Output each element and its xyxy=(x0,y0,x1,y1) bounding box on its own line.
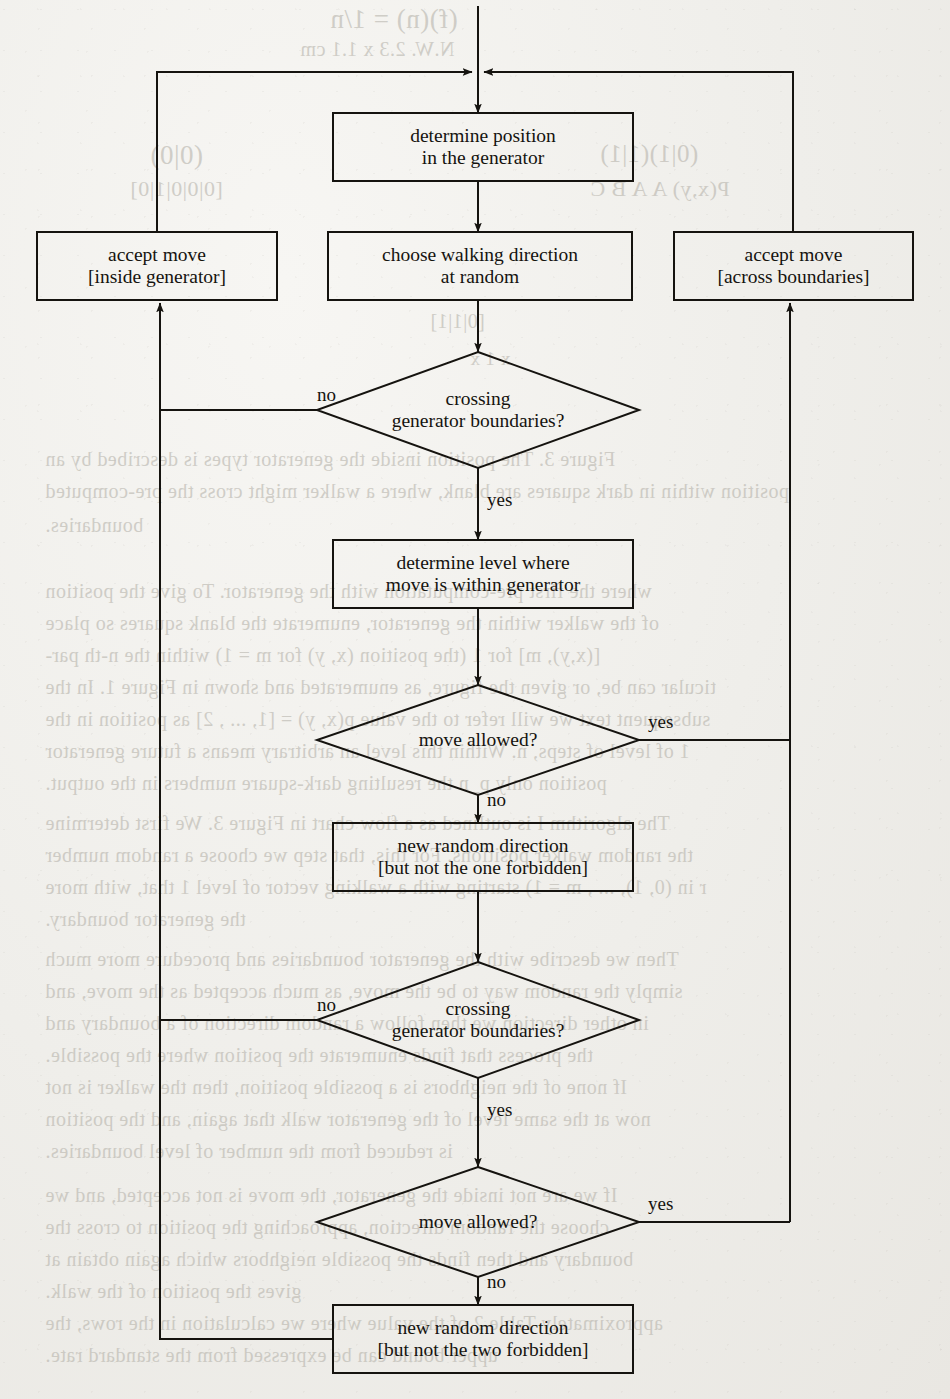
node-hitbox-crossing-1[interactable] xyxy=(317,352,639,468)
node-hitbox-move-allowed-2[interactable] xyxy=(317,1167,639,1277)
node-hitbox-new-direction-one[interactable] xyxy=(333,823,633,891)
node-hitbox-new-direction-two[interactable] xyxy=(333,1305,633,1373)
node-hitbox-determine-position[interactable] xyxy=(333,113,633,181)
node-hitbox-crossing-2[interactable] xyxy=(317,962,639,1078)
node-hitbox-accept-inside[interactable] xyxy=(37,232,277,300)
node-hitbox-choose-direction[interactable] xyxy=(328,232,632,300)
edge-left-return-rail xyxy=(160,303,333,1339)
flowchart-edges xyxy=(157,6,793,1339)
node-hitbox-move-allowed-1[interactable] xyxy=(317,685,639,795)
scanned-page: (f)(n) = 1/nN.W. 2.3 x 1.1 cm(0|0)(0|1)(… xyxy=(0,0,950,1399)
node-hitbox-accept-across[interactable] xyxy=(674,232,913,300)
node-hitbox-determine-level[interactable] xyxy=(333,540,633,608)
